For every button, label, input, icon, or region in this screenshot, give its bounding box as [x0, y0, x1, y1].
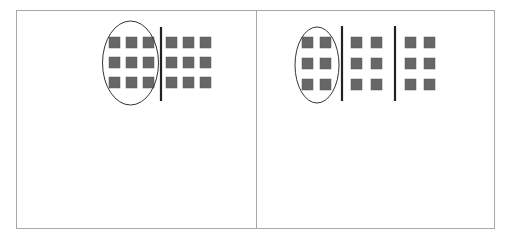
square-item — [126, 37, 137, 48]
square-item — [351, 58, 362, 69]
square-item — [371, 37, 382, 48]
square-item — [166, 77, 177, 88]
right-panel — [295, 26, 435, 103]
square-item — [320, 58, 331, 69]
square-item — [109, 77, 120, 88]
square-item — [302, 58, 313, 69]
square-item — [302, 37, 313, 48]
square-item — [166, 57, 177, 68]
square-item — [143, 77, 154, 88]
square-item — [371, 79, 382, 90]
square-item — [351, 79, 362, 90]
square-item — [351, 37, 362, 48]
square-item — [143, 37, 154, 48]
square-item — [371, 58, 382, 69]
square-item — [183, 57, 194, 68]
group-highlight-ellipse — [295, 27, 339, 103]
diagram-canvas — [0, 0, 506, 237]
square-item — [109, 57, 120, 68]
square-item — [109, 37, 120, 48]
square-item — [183, 77, 194, 88]
square-item — [166, 37, 177, 48]
square-item — [405, 79, 416, 90]
left-panel — [103, 21, 212, 105]
square-item — [320, 79, 331, 90]
square-item — [143, 57, 154, 68]
square-item — [200, 37, 211, 48]
square-item — [424, 58, 435, 69]
square-item — [405, 58, 416, 69]
square-item — [200, 77, 211, 88]
square-item — [183, 37, 194, 48]
division-diagram — [0, 0, 506, 237]
square-item — [302, 79, 313, 90]
square-item — [405, 37, 416, 48]
square-item — [424, 37, 435, 48]
square-item — [126, 57, 137, 68]
square-item — [320, 37, 331, 48]
square-item — [424, 79, 435, 90]
square-item — [200, 57, 211, 68]
square-item — [126, 77, 137, 88]
panels-layer — [103, 21, 436, 105]
frame-border — [17, 11, 495, 229]
